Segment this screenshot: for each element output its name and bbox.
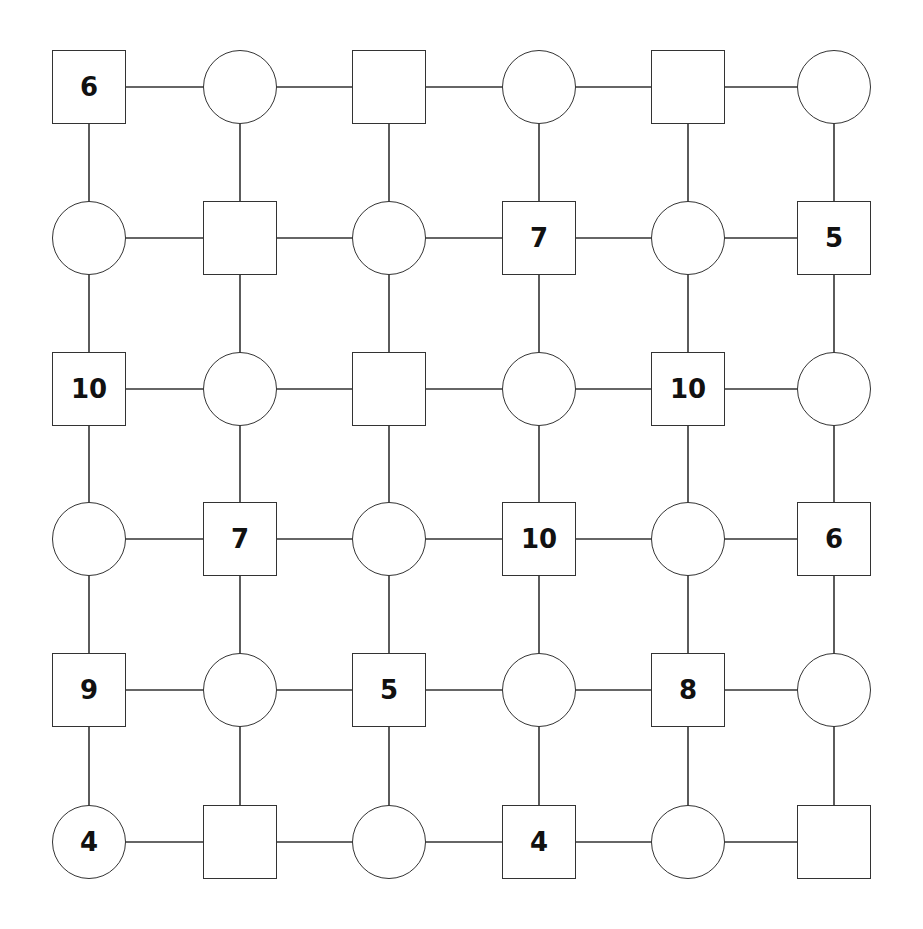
- square-node: [651, 50, 725, 124]
- square-node: 10: [502, 502, 576, 576]
- circle-node: [797, 50, 871, 124]
- circle-node: [502, 50, 576, 124]
- circle-node: [797, 653, 871, 727]
- square-node: 7: [203, 502, 277, 576]
- connector-lines: [0, 0, 923, 929]
- circle-node: [352, 201, 426, 275]
- grid-puzzle: 6751010710695844: [0, 0, 923, 929]
- square-node: 9: [52, 653, 126, 727]
- circle-node: 4: [52, 805, 126, 879]
- circle-node: [52, 502, 126, 576]
- square-node: 5: [352, 653, 426, 727]
- square-node: 7: [502, 201, 576, 275]
- square-node: [352, 352, 426, 426]
- circle-node: [203, 352, 277, 426]
- square-node: [352, 50, 426, 124]
- square-node: 6: [797, 502, 871, 576]
- square-node: 10: [52, 352, 126, 426]
- square-node: [203, 805, 277, 879]
- square-node: [797, 805, 871, 879]
- circle-node: [797, 352, 871, 426]
- circle-node: [651, 805, 725, 879]
- square-node: 6: [52, 50, 126, 124]
- circle-node: [203, 50, 277, 124]
- circle-node: [203, 653, 277, 727]
- circle-node: [352, 502, 426, 576]
- circle-node: [502, 352, 576, 426]
- square-node: 4: [502, 805, 576, 879]
- square-node: 10: [651, 352, 725, 426]
- square-node: 8: [651, 653, 725, 727]
- circle-node: [502, 653, 576, 727]
- square-node: [203, 201, 277, 275]
- square-node: 5: [797, 201, 871, 275]
- circle-node: [52, 201, 126, 275]
- circle-node: [352, 805, 426, 879]
- circle-node: [651, 502, 725, 576]
- circle-node: [651, 201, 725, 275]
